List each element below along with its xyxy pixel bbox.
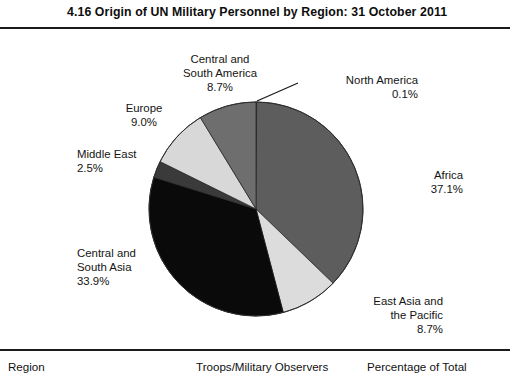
pie-label-east-asia-and-the-pacific-line1: East Asia and [373, 295, 443, 307]
pie-label-africa: Africa 37.1% [373, 168, 463, 196]
page-title: 4.16 Origin of UN Military Personnel by … [67, 5, 447, 19]
pie-label-east-asia-and-the-pacific-value: 8.7% [333, 322, 443, 336]
pie-label-middle-east-line1: Middle East [77, 148, 137, 160]
pie-label-central-and-south-asia-line1: Central and [77, 247, 136, 259]
pie-label-central-and-south-asia-line2: South Asia [77, 261, 131, 273]
pie-label-central-and-south-asia-value: 33.9% [77, 274, 187, 288]
pie-label-africa-value: 37.1% [373, 182, 463, 196]
pie-label-east-asia-and-the-pacific: East Asia and the Pacific 8.7% [333, 294, 443, 337]
pie-label-north-america: North America 0.1% [298, 73, 418, 101]
pie-label-europe-value: 9.0% [104, 115, 184, 129]
pie-label-central-and-south-asia: Central and South Asia 33.9% [77, 246, 187, 289]
pie-label-east-asia-and-the-pacific-line2: the Pacific [390, 309, 443, 321]
title-band: 4.16 Origin of UN Military Personnel by … [0, 0, 510, 27]
pie-label-europe-line1: Europe [126, 102, 163, 114]
pie-label-north-america-value: 0.1% [298, 87, 418, 101]
table-header-region: Region [8, 360, 45, 373]
table-header-row: Region Troops/Military Observers Percent… [0, 360, 510, 381]
table-header-troops-military-observers: Troops/Military Observers [196, 360, 328, 373]
pie-label-africa-line1: Africa [434, 169, 463, 181]
pie-label-central-and-south-america: Central and South America 8.7% [155, 52, 285, 95]
pie-label-middle-east: Middle East 2.5% [77, 147, 187, 175]
pie-label-north-america-line1: North America [346, 74, 418, 86]
pie-label-europe: Europe 9.0% [104, 101, 184, 129]
pie-label-central-and-south-america-value: 8.7% [155, 80, 285, 94]
table-top-divider [0, 349, 510, 351]
pie-label-middle-east-value: 2.5% [77, 161, 187, 175]
table-header-percentage-of-total: Percentage of Total [367, 360, 467, 373]
pie-label-central-and-south-america-line1: Central and [191, 53, 250, 65]
pie-label-central-and-south-america-line2: South America [183, 67, 257, 79]
pie-chart-figure: Central and South America 8.7% North Ame… [0, 29, 510, 347]
